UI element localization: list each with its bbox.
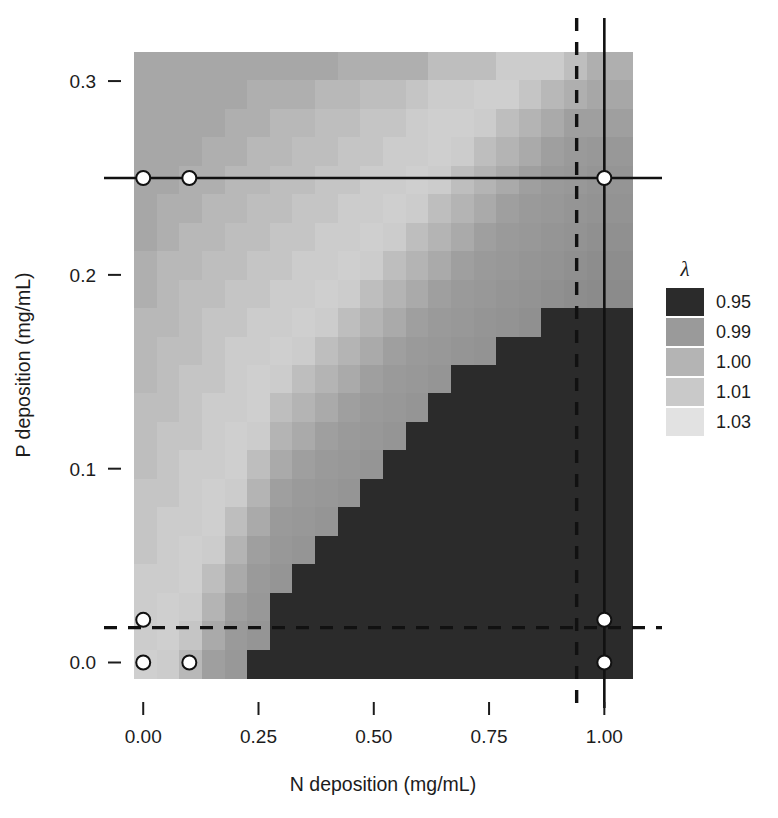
- heatmap-cell: [428, 137, 451, 166]
- heatmap-cell: [157, 422, 180, 451]
- heatmap-cell: [202, 109, 225, 138]
- heatmap-cell: [496, 52, 519, 81]
- heatmap-cell: [157, 593, 180, 622]
- heatmap-cell: [474, 52, 497, 81]
- heatmap-cell: [496, 280, 519, 309]
- heatmap-cell: [428, 194, 451, 223]
- heatmap-cell: [451, 137, 474, 166]
- heatmap-cell: [338, 450, 361, 479]
- heatmap-cell: [496, 166, 519, 195]
- heatmap-cell: [428, 109, 451, 138]
- heatmap-cell: [406, 194, 429, 223]
- legend-label: 1.00: [716, 352, 751, 372]
- heatmap-cell: [202, 223, 225, 252]
- heatmap-cell: [315, 137, 338, 166]
- heatmap-cell: [157, 223, 180, 252]
- heatmap-cell: [519, 507, 542, 536]
- heatmap-cell: [474, 280, 497, 309]
- heatmap-cell: [406, 223, 429, 252]
- heatmap-cell: [292, 337, 315, 366]
- heatmap-cell: [383, 479, 406, 508]
- heatmap-cell: [270, 194, 293, 223]
- heatmap-cell: [474, 507, 497, 536]
- heatmap-cell: [519, 479, 542, 508]
- heatmap-cell: [247, 536, 270, 565]
- heatmap-cell: [428, 80, 451, 109]
- heatmap-cell: [519, 109, 542, 138]
- heatmap-cell: [225, 137, 248, 166]
- heatmap-cell: [587, 564, 610, 593]
- heatmap-cell: [496, 80, 519, 109]
- heatmap-cell: [451, 109, 474, 138]
- heatmap-cell: [338, 650, 361, 679]
- heatmap-cell: [587, 137, 610, 166]
- heatmap-cell: [451, 536, 474, 565]
- heatmap-cell: [225, 194, 248, 223]
- heatmap-cell: [451, 223, 474, 252]
- heatmap-cell: [270, 166, 293, 195]
- heatmap-cell: [315, 109, 338, 138]
- heatmap-cell: [134, 536, 157, 565]
- heatmap-cell: [315, 536, 338, 565]
- heatmap-cell: [247, 280, 270, 309]
- heatmap-cell: [360, 80, 383, 109]
- heatmap-cell: [270, 52, 293, 81]
- heatmap-cell: [406, 450, 429, 479]
- heatmap-cell: [292, 564, 315, 593]
- heatmap-cell: [315, 337, 338, 366]
- heatmap-cell: [406, 109, 429, 138]
- heatmap-cell: [406, 280, 429, 309]
- heatmap-cell: [609, 422, 632, 451]
- heatmap-cell: [383, 337, 406, 366]
- heatmap-cell: [270, 280, 293, 309]
- heatmap-cell: [202, 166, 225, 195]
- x-axis-tick-label: 0.00: [125, 726, 162, 747]
- heatmap-cell: [202, 52, 225, 81]
- heatmap-cell: [157, 450, 180, 479]
- data-point-marker: [136, 613, 150, 627]
- heatmap-cell: [496, 337, 519, 366]
- heatmap-cell: [157, 393, 180, 422]
- heatmap-figure: 0.000.250.500.751.00 0.00.10.20.3 N depo…: [0, 0, 778, 818]
- heatmap-cell: [360, 479, 383, 508]
- heatmap-cell: [134, 393, 157, 422]
- heatmap-cell: [338, 52, 361, 81]
- heatmap-cell: [315, 280, 338, 309]
- heatmap-cell: [541, 308, 564, 337]
- heatmap-cell: [134, 80, 157, 109]
- heatmap-cell: [587, 80, 610, 109]
- heatmap-cell: [519, 166, 542, 195]
- heatmap-cell: [474, 365, 497, 394]
- heatmap-cell: [134, 251, 157, 280]
- heatmap-cell: [360, 422, 383, 451]
- heatmap-cell: [451, 337, 474, 366]
- heatmap-cell: [157, 52, 180, 81]
- heatmap-cell: [157, 564, 180, 593]
- heatmap-cell: [134, 564, 157, 593]
- heatmap-cell: [496, 393, 519, 422]
- heatmap-cell: [383, 251, 406, 280]
- legend-swatch: [666, 408, 704, 436]
- heatmap-cell: [360, 251, 383, 280]
- heatmap-cell: [541, 593, 564, 622]
- heatmap-cell: [383, 52, 406, 81]
- data-point-marker: [597, 613, 611, 627]
- heatmap-cell: [406, 337, 429, 366]
- heatmap-cell: [202, 137, 225, 166]
- heatmap-cell: [609, 251, 632, 280]
- heatmap-cell: [247, 166, 270, 195]
- heatmap-cell: [292, 479, 315, 508]
- data-point-marker: [136, 171, 150, 185]
- heatmap-cell: [179, 593, 202, 622]
- heatmap-cell: [134, 337, 157, 366]
- heatmap-cell: [292, 280, 315, 309]
- heatmap-cell: [496, 194, 519, 223]
- heatmap-cell: [292, 137, 315, 166]
- heatmap-cell: [360, 194, 383, 223]
- heatmap-cell: [360, 393, 383, 422]
- heatmap-cell: [383, 280, 406, 309]
- heatmap-cell: [292, 536, 315, 565]
- heatmap-cell: [428, 621, 451, 650]
- heatmap-cell: [383, 194, 406, 223]
- legend-swatch: [666, 348, 704, 376]
